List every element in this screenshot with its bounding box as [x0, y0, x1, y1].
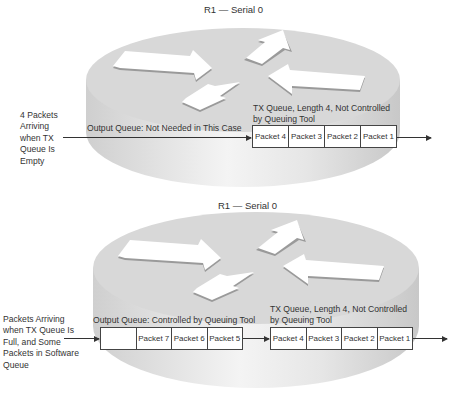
input-description-line: Queue [3, 360, 79, 371]
panel-tx-queue-empty: R1 — Serial 0 4 Packets Arriving when TX… [0, 0, 460, 198]
input-description-line: Packets in Software [3, 348, 79, 359]
tx-queue-label: TX Queue, Length 4, Not Controlled by Qu… [253, 103, 390, 125]
tx-queue-label: TX Queue, Length 4, Not Controlled by Qu… [270, 304, 407, 326]
input-description-line: Arriving [20, 121, 58, 132]
queue-cell: Packet 4 [253, 126, 289, 147]
input-description: Packets Arriving when TX Queue Is Full, … [3, 314, 79, 371]
queue-cell: Packet 4 [271, 328, 307, 349]
input-description-line: Packets Arriving [3, 314, 79, 325]
input-description-line: Queue Is [20, 144, 58, 155]
arrow-right-icon [413, 338, 447, 339]
arrow-right-icon [397, 137, 431, 138]
router-title: R1 — Serial 0 [204, 4, 263, 15]
input-description: 4 Packets Arriving when TX Queue Is Empt… [20, 110, 58, 167]
tx-queue-label-line: TX Queue, Length 4, Not Controlled [270, 304, 407, 315]
input-description-line: when TX Queue Is [3, 325, 79, 336]
queue-cell: Packet 5 [208, 328, 243, 349]
tx-queue: Packet 4 Packet 3 Packet 2 Packet 1 [252, 125, 397, 148]
output-queue: Packet 7 Packet 6 Packet 5 [100, 327, 243, 350]
tx-queue: Packet 4 Packet 3 Packet 2 Packet 1 [270, 327, 413, 350]
tx-queue-label-line: by Queuing Tool [270, 315, 407, 326]
router-icon [0, 0, 460, 198]
arrow-right-icon [64, 338, 99, 339]
queue-cell: Packet 1 [378, 328, 413, 349]
input-description-line: 4 Packets [20, 110, 58, 121]
queue-cell: Packet 2 [342, 328, 378, 349]
arrow-right-icon [63, 137, 251, 138]
input-description-line: when TX [20, 133, 58, 144]
tx-queue-label-line: TX Queue, Length 4, Not Controlled [253, 103, 390, 114]
router-title: R1 — Serial 0 [218, 200, 277, 211]
queue-cell: Packet 1 [361, 126, 396, 147]
queue-cell: Packet 7 [137, 328, 173, 349]
panel-tx-queue-full: R1 — Serial 0 Packets Arriving when TX Q… [0, 198, 460, 396]
input-description-line: Empty [20, 156, 58, 167]
arrow-right-icon [243, 338, 269, 339]
queue-cell: Packet 6 [172, 328, 208, 349]
queue-cell-empty [101, 328, 137, 349]
output-queue-label: Output Queue: Controlled by Queuing Tool [93, 315, 255, 326]
tx-queue-label-line: by Queuing Tool [253, 114, 390, 125]
queue-cell: Packet 3 [289, 126, 325, 147]
queue-cell: Packet 2 [325, 126, 361, 147]
output-queue-label: Output Queue: Not Needed in This Case [87, 123, 242, 134]
queue-cell: Packet 3 [307, 328, 343, 349]
